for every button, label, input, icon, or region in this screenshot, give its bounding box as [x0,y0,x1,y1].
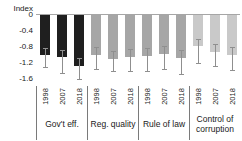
error-bar-top-cap [213,44,218,45]
group-separator [138,86,139,140]
y-tick-label: 0 [0,10,33,19]
x-year-label: 2007 [160,85,169,107]
error-bar-top-cap [196,39,201,40]
error-bar-bottom-cap [43,67,48,68]
error-bar-top-cap [230,47,235,48]
y-tick-label: -1.6 [0,74,33,83]
governance-indicators-bar-chart: Index 0-0.4-0.8-1.2-1.6199820072018Gov't… [0,0,242,141]
error-bar-top-cap [60,50,65,51]
x-year-label: 1998 [41,85,50,107]
error-bar [164,46,165,69]
error-bar [62,50,63,73]
error-bar [232,47,233,70]
error-bar [79,58,80,79]
x-year-label: 1998 [194,85,203,107]
x-year-label: 2007 [109,85,118,107]
x-year-label: 2018 [228,85,237,107]
error-bar-top-cap [94,47,99,48]
error-bar [130,49,131,71]
y-tick-label: -0.4 [0,26,33,35]
error-bar-bottom-cap [94,69,99,70]
error-bar-bottom-cap [213,66,218,67]
error-bar [45,48,46,67]
x-year-label: 1998 [143,85,152,107]
group-separator [87,86,88,140]
x-group-label: Reg. quality [88,112,138,136]
y-tick-label: -1.2 [0,58,33,67]
error-bar-top-cap [128,49,133,50]
group-separator [189,86,190,140]
x-year-label: 1998 [92,85,101,107]
error-bar-bottom-cap [77,79,82,80]
x-year-label: 2018 [177,85,186,107]
error-bar-top-cap [145,48,150,49]
group-separator [36,86,37,140]
y-tick-label: -0.8 [0,42,33,51]
x-year-label: 2007 [58,85,67,107]
error-bar-bottom-cap [230,70,235,71]
error-bar-bottom-cap [111,71,116,72]
error-bar-top-cap [43,48,48,49]
error-bar-top-cap [162,46,167,47]
error-bar-top-cap [179,50,184,51]
error-bar [96,47,97,69]
error-bar-bottom-cap [60,73,65,74]
error-bar-bottom-cap [128,71,133,72]
error-bar-bottom-cap [179,74,184,75]
x-year-label: 2018 [75,85,84,107]
error-bar [147,48,148,71]
error-bar [215,44,216,67]
x-year-label: 2007 [211,85,220,107]
x-group-label: Gov't eff. [37,112,87,136]
x-group-label: Rule of law [139,112,189,136]
error-bar [198,39,199,63]
x-group-label: Control of corruption [190,112,240,136]
error-bar-bottom-cap [162,69,167,70]
error-bar-top-cap [77,58,82,59]
error-bar [113,51,114,71]
error-bar-bottom-cap [196,63,201,64]
error-bar-bottom-cap [145,71,150,72]
error-bar-top-cap [111,51,116,52]
error-bar [181,50,182,74]
x-year-label: 2018 [126,85,135,107]
